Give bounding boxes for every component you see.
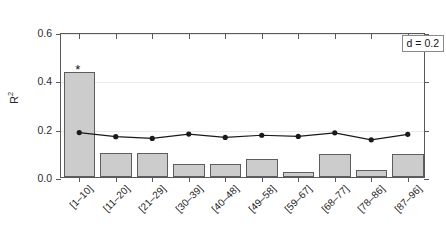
x-tick-label: [30–39] <box>173 183 204 214</box>
chart-figure: R2 0.00.20.40.6 * [1–10][11–20][21–29][3… <box>0 0 446 238</box>
y-tick-label: 0.4 <box>0 75 52 87</box>
right-axis-tick <box>424 179 429 180</box>
parameter-annotation: d = 0.2 <box>402 35 444 52</box>
x-tick-label: [59–67] <box>283 183 314 214</box>
line-marker <box>77 130 82 135</box>
x-tick-label: [68–77] <box>319 183 350 214</box>
line-marker <box>186 131 191 136</box>
y-axis-tick <box>56 179 61 180</box>
x-tick-label: [21–29] <box>137 183 168 214</box>
y-axis-title-text: R <box>8 96 20 104</box>
y-axis-title: R2 <box>6 92 20 104</box>
x-tick-label: [1–10] <box>68 183 95 210</box>
line-marker <box>405 132 410 137</box>
corner-artifact <box>6 2 14 11</box>
x-tick-label: [40–48] <box>210 183 241 214</box>
significance-star: * <box>75 65 80 75</box>
line-series <box>61 34 426 179</box>
y-tick-label: 0.2 <box>0 124 52 136</box>
line-marker <box>223 135 228 140</box>
line-marker <box>259 133 264 138</box>
x-tick-label: [11–20] <box>101 183 132 214</box>
line-path <box>79 133 408 140</box>
line-marker <box>150 136 155 141</box>
x-tick-label: [78–86] <box>356 183 387 214</box>
line-marker <box>332 130 337 135</box>
plot-area: * <box>60 33 425 178</box>
line-marker <box>369 137 374 142</box>
x-tick-label: [87–96] <box>392 183 423 214</box>
y-axis-title-exponent: 2 <box>6 92 15 96</box>
x-tick-label: [49–58] <box>246 183 277 214</box>
y-tick-label: 0.0 <box>0 172 52 184</box>
y-tick-label: 0.6 <box>0 27 52 39</box>
line-marker <box>296 134 301 139</box>
line-marker <box>113 134 118 139</box>
